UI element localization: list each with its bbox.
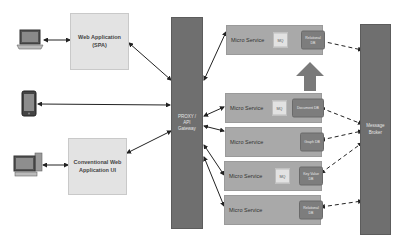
scale-up-arrow-icon	[296, 62, 324, 91]
micro-service-3: Micro Service Graph DB	[225, 127, 322, 157]
gateway-line1: PROXY /	[178, 114, 196, 120]
database-icon: Relational DB	[301, 31, 325, 50]
micro-service-5: Micro Service Relational DB	[224, 195, 321, 225]
api-gateway: PROXY / API Gateway	[171, 17, 203, 229]
message-queue-icon: MQ	[272, 101, 287, 116]
micro-service-4: Micro Service MQ Key Value DB	[224, 161, 322, 191]
message-queue-icon: MQ	[275, 169, 290, 184]
database-icon: Document DB	[292, 99, 324, 118]
web-application-spa-box: Web Application (SPA)	[70, 13, 129, 70]
gateway-service5-connector	[204, 157, 224, 206]
database-icon: Key Value DB	[299, 167, 323, 186]
db5-broker-connector	[321, 201, 362, 207]
message-queue-icon: MQ	[273, 33, 288, 48]
database-icon: Relational DB	[299, 201, 323, 220]
gateway-line3: Gateway	[178, 126, 196, 132]
connector-layer	[0, 0, 406, 247]
spa-gateway-connector	[129, 43, 171, 80]
conventional-title-line2: Application UI	[74, 167, 122, 174]
conventional-web-app-box: Conventional Web Application UI	[68, 138, 127, 195]
mobile-gateway-connector	[38, 104, 170, 105]
db4-broker-connector	[321, 143, 362, 173]
spa-title-line1: Web Application	[78, 34, 121, 41]
service-label: Micro Service	[231, 37, 264, 43]
database-icon: Graph DB	[300, 133, 324, 152]
mobile-phone-icon	[21, 90, 37, 117]
gateway-service3-connector	[204, 126, 224, 131]
micro-service-2: Micro Service MQ Document DB	[225, 93, 322, 123]
gateway-service2-connector	[204, 107, 224, 116]
service-label: Micro Service	[229, 173, 262, 179]
service-label: Micro Service	[229, 207, 262, 213]
db2-broker-connector	[321, 108, 362, 124]
gateway-service1-connector	[204, 32, 226, 80]
conventional-gateway-connector	[127, 131, 171, 153]
service-label: Micro Service	[230, 139, 263, 145]
spa-title-line2: (SPA)	[78, 42, 121, 49]
db3-broker-connector	[321, 131, 362, 140]
broker-line1: Message	[366, 123, 384, 129]
db1-broker-connector	[321, 41, 362, 50]
gateway-service4-connector	[204, 145, 224, 175]
micro-service-1: Micro Service MQ Relational DB	[226, 25, 323, 55]
desktop-computer-icon	[13, 151, 43, 178]
service-label: Micro Service	[230, 105, 263, 111]
laptop-icon	[16, 29, 44, 51]
message-broker: Message Broker	[360, 24, 391, 235]
broker-line2: Broker	[366, 130, 384, 136]
conventional-title-line1: Conventional Web	[74, 159, 122, 166]
